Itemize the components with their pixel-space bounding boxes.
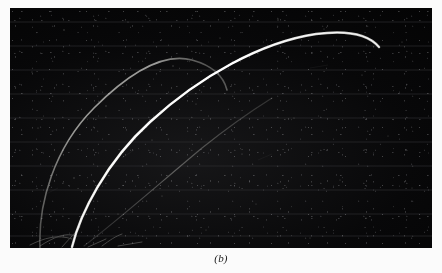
- bright-primary-track: [72, 33, 379, 247]
- faint-secondary-track: [84, 98, 272, 246]
- bright-primary-track-core: [72, 33, 379, 247]
- plate-scratches: [46, 65, 328, 194]
- figure-page: (b): [0, 0, 442, 273]
- bubble-chamber-photograph: [10, 8, 432, 248]
- track-plot: [10, 8, 432, 248]
- dim-large-arc-track: [40, 58, 227, 248]
- figure-caption: (b): [0, 252, 442, 264]
- plate-lines: [10, 22, 432, 236]
